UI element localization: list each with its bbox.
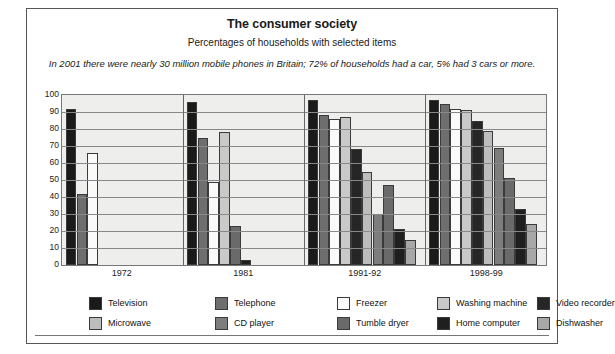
y-axis-tick: 70 bbox=[50, 141, 59, 149]
legend-item-tumble-dryer[interactable]: Tumble dryer bbox=[337, 313, 409, 333]
legend-item-label: Television bbox=[108, 298, 148, 308]
legend-item-television[interactable]: Television bbox=[89, 293, 148, 313]
legend-item-video-recorder[interactable]: Video recorder bbox=[537, 293, 615, 313]
bar bbox=[450, 109, 461, 265]
legend-item-label: Dishwasher bbox=[556, 318, 603, 328]
bar bbox=[515, 209, 526, 265]
y-axis-tick: 50 bbox=[50, 175, 59, 183]
bar bbox=[472, 121, 483, 266]
bar bbox=[187, 102, 198, 265]
legend-divider bbox=[35, 335, 549, 336]
legend-swatch-icon bbox=[537, 317, 550, 330]
x-axis-label-1998-99: 1998-99 bbox=[470, 268, 503, 278]
y-axis-tick: 20 bbox=[50, 226, 59, 234]
bar bbox=[308, 100, 319, 265]
bar bbox=[429, 100, 440, 265]
legend-swatch-icon bbox=[337, 297, 350, 310]
group-separator bbox=[304, 95, 305, 265]
bar bbox=[66, 109, 77, 265]
group-separator bbox=[183, 95, 184, 265]
chart-figure: The consumer society Percentages of hous… bbox=[26, 8, 558, 344]
legend-item-label: Home computer bbox=[456, 318, 520, 328]
chart-standfirst: In 2001 there were nearly 30 million mob… bbox=[27, 58, 557, 69]
legend-item-microwave[interactable]: Microwave bbox=[89, 313, 151, 333]
legend-item-label: Washing machine bbox=[456, 298, 527, 308]
plot-area: 0102030405060708090100 197219811991-9219… bbox=[27, 92, 559, 292]
y-axis-tick: 80 bbox=[50, 124, 59, 132]
bar bbox=[77, 194, 88, 265]
group-separator bbox=[425, 95, 426, 265]
bar bbox=[405, 240, 416, 266]
y-axis-tick: 100 bbox=[45, 90, 59, 98]
legend-item-washing-machine[interactable]: Washing machine bbox=[437, 293, 527, 313]
legend-item-dishwasher[interactable]: Dishwasher bbox=[537, 313, 603, 333]
legend-item-freezer[interactable]: Freezer bbox=[337, 293, 387, 313]
bar bbox=[219, 132, 230, 265]
legend-item-label: Freezer bbox=[356, 298, 387, 308]
legend-swatch-icon bbox=[215, 297, 228, 310]
legend-item-home-computer[interactable]: Home computer bbox=[437, 313, 520, 333]
bar bbox=[461, 110, 472, 265]
legend-item-label: Microwave bbox=[108, 318, 151, 328]
bar bbox=[208, 182, 219, 265]
y-axis-tick: 90 bbox=[50, 107, 59, 115]
x-axis-label-1981: 1981 bbox=[233, 268, 253, 278]
bar bbox=[373, 214, 384, 265]
legend-item-cd-player[interactable]: CD player bbox=[215, 313, 274, 333]
legend-item-label: Tumble dryer bbox=[356, 318, 409, 328]
legend-swatch-icon bbox=[537, 297, 550, 310]
y-axis-tick: 60 bbox=[50, 158, 59, 166]
plot-canvas bbox=[61, 94, 547, 266]
legend-row: MicrowaveCD playerTumble dryerHome compu… bbox=[37, 313, 557, 333]
y-axis-tick: 30 bbox=[50, 209, 59, 217]
legend-swatch-icon bbox=[89, 297, 102, 310]
legend-row: TelevisionTelephoneFreezerWashing machin… bbox=[37, 293, 557, 313]
bar bbox=[319, 115, 330, 265]
y-axis-tick: 0 bbox=[54, 260, 59, 268]
bar bbox=[340, 117, 351, 265]
legend-item-telephone[interactable]: Telephone bbox=[215, 293, 276, 313]
bar bbox=[362, 172, 373, 266]
y-axis-tick: 40 bbox=[50, 192, 59, 200]
legend-item-label: Video recorder bbox=[556, 298, 615, 308]
legend-swatch-icon bbox=[89, 317, 102, 330]
bar bbox=[329, 119, 340, 265]
legend-item-label: Telephone bbox=[234, 298, 276, 308]
x-axis-label-1972: 1972 bbox=[112, 268, 132, 278]
bar bbox=[440, 104, 451, 266]
chart-subtitle: Percentages of households with selected … bbox=[27, 37, 557, 48]
legend-swatch-icon bbox=[437, 317, 450, 330]
legend-swatch-icon bbox=[215, 317, 228, 330]
y-axis-tick: 10 bbox=[50, 243, 59, 251]
bar bbox=[504, 178, 515, 265]
bar bbox=[241, 260, 252, 265]
x-axis-labels: 197219811991-921998-99 bbox=[61, 268, 547, 284]
y-axis: 0102030405060708090100 bbox=[27, 92, 61, 264]
bar bbox=[198, 138, 209, 266]
legend-swatch-icon bbox=[337, 317, 350, 330]
legend-item-label: CD player bbox=[234, 318, 274, 328]
legend-swatch-icon bbox=[437, 297, 450, 310]
page-title: The consumer society bbox=[27, 17, 557, 31]
x-axis-label-1991-92: 1991-92 bbox=[348, 268, 381, 278]
chart-legend: TelevisionTelephoneFreezerWashing machin… bbox=[27, 293, 557, 337]
